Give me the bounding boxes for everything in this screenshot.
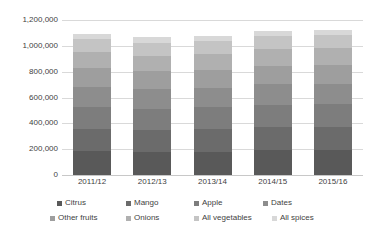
bar-segment-citrus[interactable] (314, 150, 352, 175)
legend-label: All vegetables (202, 213, 252, 223)
bar-segment-onions[interactable] (254, 49, 292, 66)
legend-item-all-vegetables[interactable]: All vegetables (194, 213, 252, 223)
legend-row-top: CitrusMangoAppleDates (0, 198, 371, 214)
y-axis-tick-label: 200,000 (2, 145, 58, 153)
legend-swatch-icon (272, 216, 277, 221)
bar-segment-mango[interactable] (73, 129, 111, 152)
bar-segment-onions[interactable] (133, 56, 171, 72)
bar-segment-dates[interactable] (133, 89, 171, 108)
plot-area (62, 20, 363, 175)
bar-segment-mango[interactable] (194, 129, 232, 151)
bar-2011-12[interactable] (73, 34, 111, 175)
x-axis-label-2014-15: 2014/15 (243, 177, 303, 187)
bar-segment-citrus[interactable] (133, 152, 171, 175)
legend-label: Onions (134, 213, 159, 223)
legend-swatch-icon (126, 216, 131, 221)
x-axis-label-2012-13: 2012/13 (122, 177, 182, 187)
chart-legend: CitrusMangoAppleDates Other fruitsOnions… (0, 198, 371, 234)
bar-segment-dates[interactable] (314, 84, 352, 105)
bar-segment-apple[interactable] (194, 107, 232, 129)
bar-2014-15[interactable] (254, 31, 292, 175)
legend-item-mango[interactable]: Mango (126, 198, 158, 208)
legend-label: Citrus (65, 198, 86, 208)
legend-label: Mango (134, 198, 158, 208)
y-axis-tick-label: 800,000 (2, 68, 58, 76)
legend-item-apple[interactable]: Apple (194, 198, 222, 208)
legend-swatch-icon (194, 216, 199, 221)
bar-series-layer (62, 20, 363, 175)
legend-label: Apple (202, 198, 222, 208)
legend-item-onions[interactable]: Onions (126, 213, 159, 223)
legend-item-all-spices[interactable]: All spices (272, 213, 314, 223)
bar-2015-16[interactable] (314, 30, 352, 175)
legend-item-dates[interactable]: Dates (263, 198, 292, 208)
bar-segment-dates[interactable] (194, 88, 232, 108)
bar-segment-apple[interactable] (314, 104, 352, 127)
x-axis-label-2015-16: 2015/16 (303, 177, 363, 187)
legend-item-citrus[interactable]: Citrus (57, 198, 86, 208)
bar-segment-other-fruits[interactable] (133, 71, 171, 89)
legend-swatch-icon (50, 216, 55, 221)
y-axis-tick-label: 600,000 (2, 94, 58, 102)
legend-swatch-icon (194, 201, 199, 206)
x-axis-label-2013-14: 2013/14 (183, 177, 243, 187)
bar-segment-other-fruits[interactable] (314, 65, 352, 84)
bar-segment-apple[interactable] (133, 109, 171, 130)
bar-segment-all-vegetables[interactable] (194, 41, 232, 54)
legend-swatch-icon (126, 201, 131, 206)
bar-segment-other-fruits[interactable] (194, 70, 232, 88)
bar-segment-citrus[interactable] (254, 150, 292, 175)
legend-label: Dates (271, 198, 292, 208)
legend-swatch-icon (263, 201, 268, 206)
bar-segment-all-vegetables[interactable] (254, 36, 292, 49)
bar-segment-all-vegetables[interactable] (133, 43, 171, 56)
y-axis-tick-label: 0 (2, 171, 58, 179)
bar-segment-other-fruits[interactable] (254, 66, 292, 85)
bar-2013-14[interactable] (194, 36, 232, 176)
bar-segment-apple[interactable] (73, 107, 111, 129)
y-axis-tick-label: 1,000,000 (2, 42, 58, 50)
bar-segment-onions[interactable] (314, 48, 352, 65)
gridline-0 (62, 175, 363, 176)
y-axis-tick-label: 400,000 (2, 119, 58, 127)
bar-segment-citrus[interactable] (194, 152, 232, 176)
stacked-bar-chart: 0200,000400,000600,000800,0001,000,0001,… (0, 0, 371, 238)
x-axis-category-labels: 2011/122012/132013/142014/152015/16 (62, 177, 363, 189)
bar-segment-onions[interactable] (73, 52, 111, 68)
bar-segment-all-vegetables[interactable] (73, 39, 111, 52)
legend-swatch-icon (57, 201, 62, 206)
bar-segment-dates[interactable] (73, 87, 111, 107)
bar-segment-mango[interactable] (254, 127, 292, 150)
legend-label: All spices (280, 213, 314, 223)
legend-row-bottom: Other fruitsOnionsAll vegetablesAll spic… (0, 213, 371, 229)
bar-segment-onions[interactable] (194, 54, 232, 70)
legend-label: Other fruits (58, 213, 98, 223)
bar-2012-13[interactable] (133, 37, 171, 175)
bar-segment-apple[interactable] (254, 105, 292, 128)
bar-segment-other-fruits[interactable] (73, 68, 111, 86)
bar-segment-all-vegetables[interactable] (314, 35, 352, 48)
legend-item-other-fruits[interactable]: Other fruits (50, 213, 98, 223)
x-axis-label-2011-12: 2011/12 (62, 177, 122, 187)
bar-segment-dates[interactable] (254, 84, 292, 104)
bar-segment-mango[interactable] (133, 130, 171, 152)
bar-segment-citrus[interactable] (73, 151, 111, 175)
bar-segment-mango[interactable] (314, 127, 352, 150)
y-axis-tick-label: 1,200,000 (2, 16, 58, 24)
